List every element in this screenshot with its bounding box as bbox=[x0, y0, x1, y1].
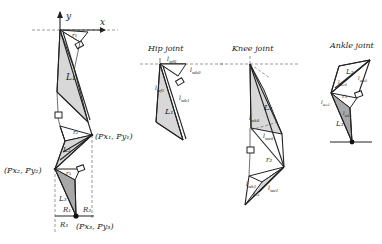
ankle-L2-label: L₂ bbox=[345, 68, 354, 76]
L3-label: L₃ bbox=[58, 195, 67, 203]
lwb0-label: lwb0 bbox=[190, 66, 201, 75]
lwe1-label: lwe1 bbox=[268, 184, 278, 193]
lwf0-label: lwf0 bbox=[167, 55, 177, 64]
R2-label: R₂ bbox=[82, 206, 91, 214]
hip-L1-label: L₁ bbox=[164, 107, 174, 116]
actuator-icon bbox=[76, 165, 84, 172]
r1-label: r₁ bbox=[72, 31, 77, 38]
y-axis-label: y bbox=[65, 11, 72, 21]
lwb1-label: lwb1 bbox=[179, 94, 189, 103]
point-p1-label: (Px₁, Py₁) bbox=[95, 132, 133, 141]
knee-L3-label: L₃ bbox=[252, 190, 260, 197]
lwe0-label: lwe0 bbox=[263, 132, 274, 141]
ankle-r3-label: r₃ bbox=[342, 92, 348, 99]
point-p3-label: (Px₃, Py₃) bbox=[76, 222, 114, 231]
leg-model-diagram: y x r₁ L₁ r₂ (Px₁, Py₁) L₂ bbox=[0, 0, 382, 244]
lwa1-label: lwa1 bbox=[321, 99, 330, 107]
hip-joint-title: Hip joint bbox=[147, 44, 184, 53]
knee-L2-label: L₂ bbox=[263, 103, 273, 112]
lwk1-label: lwk1 bbox=[246, 180, 256, 189]
lwb0-ankle-label: lwb0 bbox=[358, 75, 368, 83]
ankle-joint-detail: Ankle joint L₂ lwa0 lwb0 r₃ lwa1 lwb1 L₃ bbox=[321, 41, 375, 144]
knee-joint-detail: Knee joint L₂ lwk0 lwe0 r₂ lwk1 lwe1 L₃ bbox=[220, 44, 300, 205]
actuator-icon bbox=[354, 91, 362, 98]
actuator-icon bbox=[247, 147, 254, 153]
actuator-icon bbox=[176, 78, 185, 86]
knee-joint-title: Knee joint bbox=[231, 44, 274, 53]
actuator-icon bbox=[55, 112, 62, 118]
ground-contact-point bbox=[73, 213, 78, 218]
R3-label: R₃ bbox=[59, 221, 68, 229]
main-leg-model: y x r₁ L₁ r₂ (Px₁, Py₁) L₂ bbox=[4, 11, 133, 232]
hip-joint-detail: Hip joint lwf0 lwb0 lwf1 lwb1 L₁ bbox=[140, 44, 225, 140]
r3-label: r₃ bbox=[66, 169, 72, 176]
R1-label: R₁ bbox=[62, 206, 71, 214]
L2-label: L₂ bbox=[62, 146, 71, 154]
r2-label: r₂ bbox=[73, 128, 79, 135]
ankle-L3-label: L₃ bbox=[335, 120, 344, 128]
ankle-joint-title: Ankle joint bbox=[329, 41, 375, 50]
knee-r2-label: r₂ bbox=[266, 156, 272, 164]
L1-label: L₁ bbox=[65, 72, 76, 82]
point-p2-label: (Px₂, Py₂) bbox=[4, 166, 42, 175]
y-axis-arrow-icon bbox=[57, 11, 63, 18]
x-axis-arrow-icon bbox=[100, 27, 106, 33]
x-axis-label: x bbox=[100, 17, 105, 27]
